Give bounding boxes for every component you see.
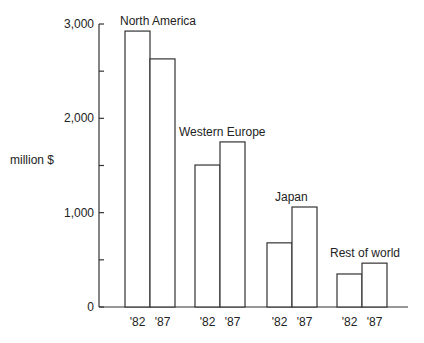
x-axis-labels: '82'87'82'87'82'87'82'87: [130, 315, 383, 329]
x-tick-label: '87: [225, 315, 241, 329]
x-tick-label: '87: [367, 315, 383, 329]
bar: [337, 274, 362, 307]
x-tick-label: '82: [130, 315, 146, 329]
y-axis-label: million $: [10, 153, 54, 167]
x-tick-label: '87: [297, 315, 313, 329]
bar: [362, 263, 387, 307]
bar: [150, 59, 175, 307]
region-label: North America: [120, 14, 196, 28]
bar: [267, 243, 292, 307]
y-tick-label: 3,000: [64, 17, 94, 31]
x-tick-label: '82: [342, 315, 358, 329]
bar: [125, 31, 150, 307]
x-tick-label: '82: [272, 315, 288, 329]
y-tick-label: 1,000: [64, 206, 94, 220]
x-tick-label: '82: [200, 315, 216, 329]
region-label: Rest of world: [330, 246, 400, 260]
bar-chart: 01,0002,0003,000 million $ '82'87'82'87'…: [0, 0, 424, 343]
y-tick-label: 2,000: [64, 111, 94, 125]
bar: [292, 207, 317, 307]
bar: [220, 142, 245, 307]
y-tick-label: 0: [87, 300, 94, 314]
region-label: Japan: [275, 190, 308, 204]
bars: [125, 31, 387, 307]
x-tick-label: '87: [155, 315, 171, 329]
region-label: Western Europe: [179, 125, 266, 139]
bar: [195, 165, 220, 307]
